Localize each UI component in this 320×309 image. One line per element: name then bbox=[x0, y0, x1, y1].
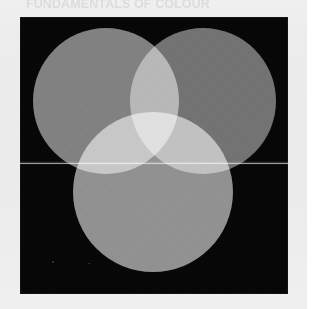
bleed-through-caption-bottom bbox=[24, 299, 264, 307]
bleed-through-caption-top: FUNDAMENTALS OF COLOUR bbox=[26, 0, 276, 12]
additive-colour-mixing-plate bbox=[20, 17, 288, 294]
scan-dust-speck bbox=[52, 261, 54, 263]
scan-dust-speck bbox=[88, 263, 90, 264]
disc-blue-light bbox=[73, 112, 233, 272]
